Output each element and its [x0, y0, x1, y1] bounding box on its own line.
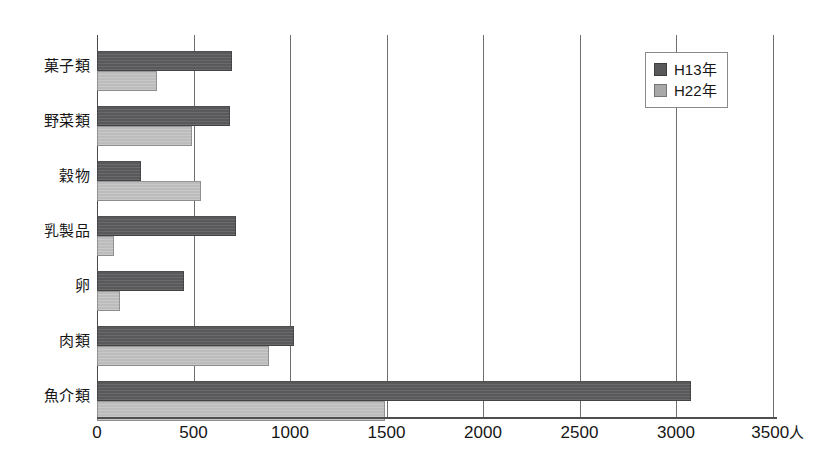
- light-gray-swatch-icon: [654, 84, 667, 97]
- x-axis-tick-labels: 0500100015002000250030003500人: [0, 424, 822, 454]
- x-axis-unit-label: 人: [789, 424, 804, 441]
- bar-H22年-菓子類[interactable]: [97, 71, 157, 91]
- bar-H13年-野菜類[interactable]: [97, 106, 230, 126]
- legend-entry-h22[interactable]: H22年: [654, 80, 717, 101]
- bar-group: [97, 326, 757, 366]
- bar-H22年-野菜類[interactable]: [97, 126, 192, 146]
- category-label-2: 穀物: [4, 168, 90, 183]
- bar-group: [97, 216, 757, 256]
- bar-H13年-乳製品[interactable]: [97, 216, 236, 236]
- bar-group: [97, 106, 757, 146]
- category-label-3: 乳製品: [4, 223, 90, 238]
- bar-H13年-肉類[interactable]: [97, 326, 294, 346]
- legend-label-1: H22年: [674, 83, 717, 98]
- x-tick-label-2500: 2500: [561, 424, 599, 441]
- dark-gray-swatch-icon: [654, 63, 667, 76]
- category-label-0: 菓子類: [4, 58, 90, 73]
- x-tick-label-1000: 1000: [271, 424, 309, 441]
- horizontal-bar-chart: 菓子類 野菜類 穀物 乳製品 卵 肉類 魚介類 0500100015002000…: [0, 0, 822, 472]
- bar-H22年-乳製品[interactable]: [97, 236, 114, 256]
- x-tick-label-0: 0: [92, 424, 101, 441]
- bar-H13年-穀物[interactable]: [97, 161, 141, 181]
- x-tick-label-500: 500: [179, 424, 207, 441]
- bar-H13年-卵[interactable]: [97, 271, 184, 291]
- x-tick-label-3000: 3000: [657, 424, 695, 441]
- bar-group: [97, 161, 757, 201]
- bar-H13年-菓子類[interactable]: [97, 51, 232, 71]
- bar-group: [97, 381, 757, 421]
- x-axis-baseline: [97, 417, 777, 419]
- bar-H22年-卵[interactable]: [97, 291, 120, 311]
- legend-entry-h13[interactable]: H13年: [654, 59, 717, 80]
- category-label-5: 肉類: [4, 333, 90, 348]
- y-axis-category-labels: 菓子類 野菜類 穀物 乳製品 卵 肉類 魚介類: [0, 35, 90, 418]
- legend-label-0: H13年: [674, 62, 717, 77]
- bar-H22年-穀物[interactable]: [97, 181, 201, 201]
- bar-H13年-魚介類[interactable]: [97, 381, 691, 401]
- x-tick-label-3500: 3500人: [751, 424, 804, 441]
- category-label-1: 野菜類: [4, 113, 90, 128]
- gridline-3500: [773, 35, 774, 418]
- chart-legend: H13年 H22年: [645, 52, 728, 108]
- x-tick-label-1500: 1500: [368, 424, 406, 441]
- bar-group: [97, 271, 757, 311]
- category-label-6: 魚介類: [4, 388, 90, 403]
- x-tick-label-2000: 2000: [464, 424, 502, 441]
- category-label-4: 卵: [4, 278, 90, 293]
- bar-H22年-肉類[interactable]: [97, 346, 269, 366]
